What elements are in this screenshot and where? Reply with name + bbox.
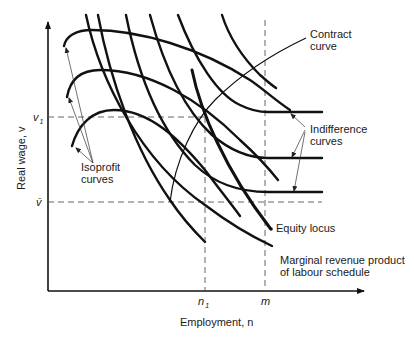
contract-curve-label-line2: curve: [310, 40, 337, 52]
x-axis-label: Employment, n: [180, 316, 253, 328]
indifference-curve-3: [126, 15, 322, 192]
axes: [48, 22, 364, 291]
mrpl-label-line1: Marginal revenue product: [280, 254, 405, 266]
pointer-line: [291, 114, 305, 127]
equity-locus-endpoint: [269, 227, 273, 231]
bargaining-diagram: v1 v̄ n1 m Employment, n Real wage, v Co…: [0, 0, 414, 338]
y-tick-labels: v1 v̄: [33, 111, 44, 208]
x-tick-labels: n1 m: [198, 295, 270, 309]
indifference-label-line1: Indifference: [310, 123, 367, 135]
contract-curve-label-line1: Contract: [310, 28, 352, 40]
pointer-line: [69, 98, 93, 163]
contract-curve: [170, 38, 306, 202]
pointer-line: [66, 48, 93, 163]
x-tick-n1: n1: [198, 295, 209, 309]
isoprofit-label-line1: Isoprofit: [81, 161, 120, 173]
isoprofit-pointers: [66, 48, 93, 163]
y-axis-label: Real wage, v: [15, 126, 27, 190]
mrpl-label-line2: of labour schedule: [280, 266, 370, 278]
indifference-label-line2: curves: [310, 135, 343, 147]
y-tick-vbar: v̄: [36, 196, 43, 208]
isoprofit-label-line2: curves: [81, 173, 114, 185]
indifference-curve-upper: [222, 15, 276, 88]
indifference-pointers: [291, 114, 305, 191]
y-tick-v1: v1: [33, 111, 44, 125]
x-tick-m: m: [261, 295, 270, 307]
equity-locus-label: Equity locus: [276, 222, 336, 234]
